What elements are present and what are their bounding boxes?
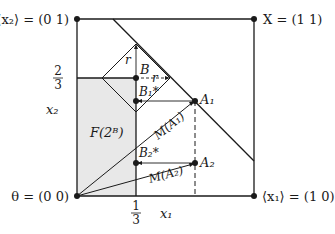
point-X (251, 16, 257, 22)
x-tick-den: 3 (132, 213, 140, 227)
x-tick-num: 1 (132, 199, 140, 213)
label-B1: B₁* (138, 85, 159, 99)
x-axis-label: x₁ (160, 206, 173, 221)
label-r-top: r (125, 53, 132, 67)
label-region: F(2ᴮ) (89, 125, 123, 140)
y-tick-den: 3 (54, 78, 62, 92)
label-top-left: ⟨x₂⟩ = (0 1) (0, 12, 69, 27)
label-m-a1: M(A₁) (150, 109, 187, 143)
label-origin: θ = (0 0) (11, 189, 69, 204)
point-x2 (74, 16, 80, 22)
label-m-a2: M(A₂) (146, 163, 185, 186)
label-top-right: X = (1 1) (263, 12, 322, 27)
label-A2: A₂ (199, 155, 215, 170)
label-bottom-right: ⟨x₁⟩ = (1 0) (262, 189, 335, 204)
label-B2: B₂* (138, 146, 159, 160)
point-A1 (192, 98, 198, 104)
label-B: B (139, 62, 150, 77)
point-origin (74, 193, 80, 199)
point-B (133, 75, 139, 81)
point-x1 (251, 193, 257, 199)
label-A1: A₁ (199, 92, 215, 107)
point-A2 (192, 160, 198, 166)
y-tick-num: 2 (54, 64, 62, 78)
point-B2 (133, 160, 139, 166)
diagram-canvas: ⟨x₂⟩ = (0 1) X = (1 1) θ = (0 0) ⟨x₁⟩ = … (0, 0, 335, 234)
y-axis-label: x₂ (46, 102, 59, 117)
